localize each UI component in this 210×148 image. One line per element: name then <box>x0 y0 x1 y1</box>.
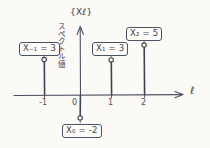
spectrum-stem-plot-figure: {Xℓ} スペクトル値 ℓ -1 0 1 2 X₋₁ = 3 X₁ = 3 X₂… <box>0 0 210 148</box>
tick-label-2: 2 <box>141 99 146 107</box>
callout-x-2: X₂ = 5 <box>126 27 162 41</box>
horizontal-axis <box>14 91 183 97</box>
horizontal-axis-label: ℓ <box>190 86 194 96</box>
plot-title: {Xℓ} <box>70 8 93 17</box>
tick-label-minus-1: -1 <box>39 99 47 107</box>
stem-l-1 <box>109 58 113 95</box>
tick-label-1: 1 <box>108 99 113 107</box>
callout-x-minus-1: X₋₁ = 3 <box>19 42 60 56</box>
callout-x-0: X₀ = -2 <box>62 124 102 138</box>
tick-label-0: 0 <box>72 99 77 107</box>
vertical-axis <box>77 27 83 96</box>
callout-x-1: X₁ = 3 <box>92 42 128 56</box>
stem-marker-l-2 <box>142 43 146 47</box>
plot-canvas <box>0 0 210 148</box>
stem-l-0 <box>78 95 82 120</box>
stem-marker-l-minus-1 <box>42 57 46 61</box>
stem-l-minus-1 <box>42 57 46 95</box>
stem-marker-l-1 <box>109 58 113 62</box>
stem-l-2 <box>142 43 146 95</box>
